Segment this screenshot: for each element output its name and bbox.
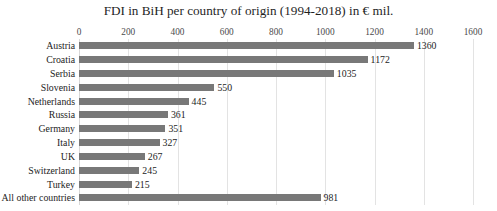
category-label: Slovenia — [0, 81, 75, 94]
category-label: Netherlands — [0, 95, 75, 108]
bar — [79, 56, 368, 63]
bar-row: Slovenia550 — [0, 81, 497, 95]
bar-row: Germany351 — [0, 122, 497, 136]
bar — [79, 181, 132, 188]
category-label: Germany — [0, 122, 75, 135]
chart-title: FDI in BiH per country of origin (1994-2… — [0, 1, 497, 20]
bar-value-label: 361 — [171, 108, 186, 121]
x-axis-tick-labels: 02004006008001000120014001600 — [0, 26, 497, 39]
x-tick-label: 800 — [269, 26, 283, 38]
x-tick-label: 0 — [77, 26, 82, 38]
x-tick-label: 600 — [220, 26, 234, 38]
category-label: Switzerland — [0, 164, 75, 177]
bar-row: UK267 — [0, 150, 497, 164]
category-label: Russia — [0, 108, 75, 121]
bar — [79, 125, 165, 132]
bar — [79, 70, 334, 77]
bar-row: Turkey215 — [0, 177, 497, 191]
category-label: Austria — [0, 39, 75, 52]
category-label: Italy — [0, 136, 75, 149]
x-tick-label: 200 — [121, 26, 135, 38]
category-label: All other countries — [0, 191, 75, 204]
bar — [79, 98, 189, 105]
bar-row: Switzerland245 — [0, 164, 497, 178]
bar-row: Austria1360 — [0, 39, 497, 53]
bar-row: Russia361 — [0, 108, 497, 122]
x-tick-label: 1600 — [464, 26, 483, 38]
bar-row: Serbia1035 — [0, 67, 497, 81]
x-tick-label: 1200 — [365, 26, 384, 38]
x-tick-label: 1400 — [414, 26, 433, 38]
bar-value-label: 550 — [217, 81, 232, 94]
bar-rows: Austria1360Croatia1172Serbia1035Slovenia… — [0, 39, 497, 205]
category-label: Turkey — [0, 178, 75, 191]
bar — [79, 167, 139, 174]
bar-value-label: 351 — [168, 122, 183, 135]
x-tick-label: 400 — [171, 26, 185, 38]
bar-value-label: 245 — [142, 164, 157, 177]
bar-value-label: 267 — [148, 150, 163, 163]
category-label: Croatia — [0, 53, 75, 66]
bar-value-label: 445 — [192, 95, 207, 108]
x-tick-label: 1000 — [316, 26, 335, 38]
bar-value-label: 1360 — [417, 39, 437, 52]
bar-row: Netherlands445 — [0, 94, 497, 108]
category-label: UK — [0, 150, 75, 163]
bar — [79, 84, 214, 91]
bar — [79, 42, 414, 49]
bar — [79, 111, 168, 118]
bar-value-label: 327 — [163, 136, 178, 149]
bar — [79, 194, 321, 201]
bar-row: All other countries981 — [0, 191, 497, 205]
fdi-bar-chart: FDI in BiH per country of origin (1994-2… — [0, 0, 497, 211]
bar — [79, 139, 160, 146]
bar-row: Croatia1172 — [0, 53, 497, 67]
bar-value-label: 1035 — [337, 67, 357, 80]
category-label: Serbia — [0, 67, 75, 80]
bar — [79, 153, 145, 160]
bar-value-label: 215 — [135, 178, 150, 191]
bar-value-label: 981 — [324, 191, 339, 204]
bar-value-label: 1172 — [371, 53, 390, 66]
bar-row: Italy327 — [0, 136, 497, 150]
